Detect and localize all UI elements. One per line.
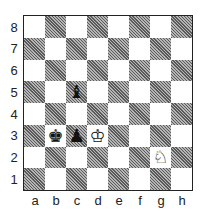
square-e8[interactable] bbox=[108, 16, 129, 38]
square-h4[interactable] bbox=[171, 103, 192, 125]
square-h6[interactable] bbox=[171, 60, 192, 82]
file-label: e bbox=[109, 193, 130, 208]
square-f3[interactable] bbox=[129, 125, 150, 147]
square-h7[interactable] bbox=[171, 38, 192, 60]
square-b8[interactable] bbox=[45, 16, 66, 38]
black-pawn-icon[interactable]: ♟ bbox=[68, 127, 84, 145]
square-g2[interactable]: ♘ bbox=[150, 147, 171, 169]
square-f1[interactable] bbox=[129, 168, 150, 190]
square-c3[interactable]: ♟ bbox=[66, 125, 87, 147]
square-f6[interactable] bbox=[129, 60, 150, 82]
square-d3[interactable]: ♔ bbox=[87, 125, 108, 147]
square-d7[interactable] bbox=[87, 38, 108, 60]
square-c7[interactable] bbox=[66, 38, 87, 60]
black-bishop-icon[interactable]: ♝ bbox=[68, 83, 84, 101]
square-a6[interactable] bbox=[24, 60, 45, 82]
square-f4[interactable] bbox=[129, 103, 150, 125]
file-label: f bbox=[130, 193, 151, 208]
square-c5[interactable]: ♝ bbox=[66, 81, 87, 103]
square-d6[interactable] bbox=[87, 60, 108, 82]
rank-label: 6 bbox=[8, 60, 20, 82]
rank-label: 1 bbox=[8, 169, 20, 191]
square-d4[interactable] bbox=[87, 103, 108, 125]
file-label: d bbox=[88, 193, 109, 208]
square-a1[interactable] bbox=[24, 168, 45, 190]
square-f5[interactable] bbox=[129, 81, 150, 103]
white-king-icon[interactable]: ♔ bbox=[89, 127, 105, 145]
square-e4[interactable] bbox=[108, 103, 129, 125]
square-e3[interactable] bbox=[108, 125, 129, 147]
square-e7[interactable] bbox=[108, 38, 129, 60]
black-king-icon[interactable]: ♚ bbox=[47, 127, 63, 145]
square-g8[interactable] bbox=[150, 16, 171, 38]
square-c6[interactable] bbox=[66, 60, 87, 82]
rank-label: 7 bbox=[8, 38, 20, 60]
square-f8[interactable] bbox=[129, 16, 150, 38]
square-b1[interactable] bbox=[45, 168, 66, 190]
file-label: a bbox=[25, 193, 46, 208]
square-b7[interactable] bbox=[45, 38, 66, 60]
rank-label: 4 bbox=[8, 104, 20, 126]
file-label: c bbox=[67, 193, 88, 208]
square-e1[interactable] bbox=[108, 168, 129, 190]
square-d8[interactable] bbox=[87, 16, 108, 38]
file-label: h bbox=[172, 193, 193, 208]
square-a4[interactable] bbox=[24, 103, 45, 125]
file-label: g bbox=[151, 193, 172, 208]
square-g3[interactable] bbox=[150, 125, 171, 147]
square-g1[interactable] bbox=[150, 168, 171, 190]
rank-label: 3 bbox=[8, 125, 20, 147]
square-b6[interactable] bbox=[45, 60, 66, 82]
square-h3[interactable] bbox=[171, 125, 192, 147]
square-a2[interactable] bbox=[24, 147, 45, 169]
square-a3[interactable] bbox=[24, 125, 45, 147]
square-h1[interactable] bbox=[171, 168, 192, 190]
square-c8[interactable] bbox=[66, 16, 87, 38]
square-c1[interactable] bbox=[66, 168, 87, 190]
square-a8[interactable] bbox=[24, 16, 45, 38]
square-b2[interactable] bbox=[45, 147, 66, 169]
square-h2[interactable] bbox=[171, 147, 192, 169]
square-e5[interactable] bbox=[108, 81, 129, 103]
rank-label: 5 bbox=[8, 82, 20, 104]
square-b5[interactable] bbox=[45, 81, 66, 103]
square-e2[interactable] bbox=[108, 147, 129, 169]
white-knight-icon[interactable]: ♘ bbox=[152, 148, 168, 166]
square-h5[interactable] bbox=[171, 81, 192, 103]
square-a5[interactable] bbox=[24, 81, 45, 103]
square-f2[interactable] bbox=[129, 147, 150, 169]
file-label: b bbox=[46, 193, 67, 208]
square-b3[interactable]: ♚ bbox=[45, 125, 66, 147]
square-h8[interactable] bbox=[171, 16, 192, 38]
square-f7[interactable] bbox=[129, 38, 150, 60]
square-g7[interactable] bbox=[150, 38, 171, 60]
square-e6[interactable] bbox=[108, 60, 129, 82]
square-d5[interactable] bbox=[87, 81, 108, 103]
chess-board[interactable]: ♝♚♟♔♘ bbox=[23, 15, 193, 191]
square-c2[interactable] bbox=[66, 147, 87, 169]
square-b4[interactable] bbox=[45, 103, 66, 125]
square-d2[interactable] bbox=[87, 147, 108, 169]
square-g4[interactable] bbox=[150, 103, 171, 125]
square-c4[interactable] bbox=[66, 103, 87, 125]
square-g5[interactable] bbox=[150, 81, 171, 103]
rank-label: 8 bbox=[8, 17, 20, 39]
square-g6[interactable] bbox=[150, 60, 171, 82]
square-a7[interactable] bbox=[24, 38, 45, 60]
rank-label: 2 bbox=[8, 147, 20, 169]
square-d1[interactable] bbox=[87, 168, 108, 190]
